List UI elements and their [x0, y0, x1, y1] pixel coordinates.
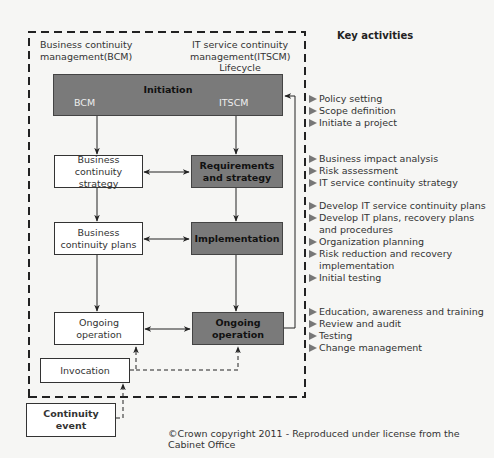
triangle-bullet-icon: [309, 344, 317, 352]
triangle-bullet-icon: [309, 320, 317, 328]
triangle-bullet-icon: [309, 332, 317, 340]
initiation-title: Initiation: [54, 84, 282, 96]
ongoing-operation-itscm-box: Ongoing operation: [192, 312, 284, 345]
initiation-box: Initiation BCM ITSCM: [53, 74, 283, 116]
activity-item: Develop IT plans, recovery plans and pro…: [309, 212, 489, 236]
triangle-bullet-icon: [309, 167, 317, 175]
activity-item: Initiate a project: [309, 117, 397, 129]
activity-item: Business impact analysis: [309, 153, 458, 165]
activity-item: Policy setting: [309, 93, 397, 105]
activity-item: Review and audit: [309, 318, 484, 330]
initiation-itscm-label: ITSCM: [219, 97, 248, 109]
activity-item: Risk assessment: [309, 165, 458, 177]
implementation-box: Implementation: [191, 222, 283, 255]
triangle-bullet-icon: [309, 179, 317, 187]
activity-item: Risk reduction and recovery implementati…: [309, 248, 489, 272]
initiation-bcm-label: BCM: [74, 97, 95, 109]
invocation-box: Invocation: [40, 358, 130, 383]
bcm-header-label: Business continuity management(BCM): [40, 39, 140, 63]
activities-implementation: Develop IT service continuity plans Deve…: [309, 200, 489, 284]
activity-item: Testing: [309, 330, 484, 342]
ongoing-operation-bcm-box: Ongoing operation: [54, 312, 144, 345]
key-activities-title: Key activities: [337, 30, 413, 41]
triangle-bullet-icon: [309, 308, 317, 316]
itscm-header-label: IT service continuity management(ITSCM): [190, 39, 290, 63]
triangle-bullet-icon: [309, 95, 317, 103]
continuity-event-box: Continuity event: [26, 403, 116, 437]
lifecycle-label: Lifecycle: [190, 62, 290, 74]
triangle-bullet-icon: [309, 238, 317, 246]
activities-ongoing: Education, awareness and training Review…: [309, 306, 484, 354]
activities-initiation: Policy setting Scope definition Initiate…: [309, 93, 397, 129]
triangle-bullet-icon: [309, 214, 317, 222]
triangle-bullet-icon: [309, 250, 317, 258]
triangle-bullet-icon: [309, 155, 317, 163]
bc-plans-box: Business continuity plans: [54, 222, 143, 255]
triangle-bullet-icon: [309, 119, 317, 127]
triangle-bullet-icon: [309, 107, 317, 115]
activity-item: Initial testing: [309, 272, 489, 284]
activity-item: Develop IT service continuity plans: [309, 200, 489, 212]
triangle-bullet-icon: [309, 202, 317, 210]
triangle-bullet-icon: [309, 274, 317, 282]
activity-item: Scope definition: [309, 105, 397, 117]
requirements-strategy-box: Requirements and strategy: [191, 155, 283, 188]
activity-item: IT service continuity strategy: [309, 177, 458, 189]
activity-item: Organization planning: [309, 236, 489, 248]
activities-requirements: Business impact analysis Risk assessment…: [309, 153, 458, 189]
activity-item: Change management: [309, 342, 484, 354]
activity-item: Education, awareness and training: [309, 306, 484, 318]
bc-strategy-box: Business continuity strategy: [54, 155, 143, 188]
copyright-notice: ©Crown copyright 2011 - Reproduced under…: [168, 428, 494, 450]
